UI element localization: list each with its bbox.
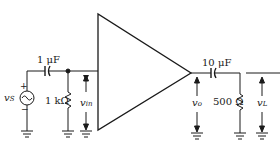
circuit-schematic bbox=[0, 0, 280, 151]
input-capacitor-label: 1 μF bbox=[37, 55, 60, 65]
input-resistor-label: 1 kΩ bbox=[45, 96, 69, 106]
ground-icon bbox=[256, 133, 268, 139]
ground-icon bbox=[62, 131, 74, 137]
source-plus-sign: + bbox=[20, 82, 28, 91]
ground-icon bbox=[191, 133, 203, 139]
output-capacitor-label: 10 μF bbox=[202, 58, 231, 68]
load-voltage-label: vL bbox=[257, 98, 267, 108]
ground-icon bbox=[234, 133, 246, 139]
ac-source-icon bbox=[20, 91, 34, 105]
output-voltage-label: vo bbox=[192, 98, 202, 108]
amplifier-circuit-diagram: + − vS 1 μF 1 kΩ vin vo 10 μF 500 Ω vL bbox=[0, 0, 280, 151]
ground-icon bbox=[21, 131, 33, 137]
source-minus-sign: − bbox=[21, 105, 29, 114]
load-resistor-label: 500 Ω bbox=[213, 97, 244, 107]
ground-icon bbox=[80, 131, 92, 137]
input-voltage-label: vin bbox=[80, 98, 92, 108]
amplifier-triangle bbox=[98, 14, 191, 130]
source-voltage-label: vS bbox=[4, 93, 14, 103]
